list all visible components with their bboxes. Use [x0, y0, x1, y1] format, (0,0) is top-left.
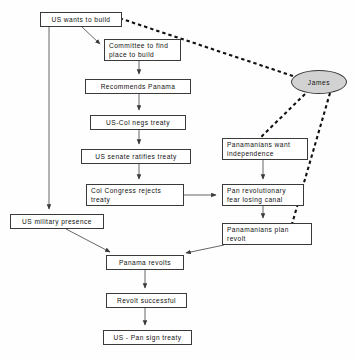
edge-us-military-presence-to-panama-revolts: [66, 229, 110, 252]
node-label: US senate ratifies treaty: [95, 152, 177, 161]
node-col-congress-rejects-treaty[interactable]: Col Congress rejects treaty: [86, 184, 184, 206]
node-label: Recommends Panama: [101, 82, 176, 91]
node-us-military-presence[interactable]: US military presence: [10, 214, 104, 229]
edge-us-wants-build-to-committee: [82, 27, 100, 44]
node-panama-revolts[interactable]: Panama revolts: [106, 255, 184, 270]
node-label: Panamanians want independence: [227, 140, 290, 158]
node-label: US wants to build: [52, 15, 111, 24]
node-us-pan-sign-treaty[interactable]: US - Pan sign treaty: [103, 330, 192, 345]
node-label: Col Congress rejects treaty: [91, 186, 161, 204]
node-panamanians-want-independence[interactable]: Panamanians want independence: [222, 138, 308, 160]
edge-panamanians-plan-revolt-to-panama-revolts: [186, 245, 224, 253]
node-label: Panamanians plan revolt: [227, 225, 289, 243]
node-label: US-Col negs treaty: [106, 118, 170, 127]
node-label: Panama revolts: [119, 258, 171, 267]
node-label: US - Pan sign treaty: [113, 333, 181, 342]
node-label: Revolt successful: [117, 296, 176, 305]
node-revolt-successful[interactable]: Revolt successful: [106, 293, 187, 308]
node-label: James: [308, 79, 330, 86]
node-us-col-negs-treaty[interactable]: US-Col negs treaty: [90, 115, 186, 130]
node-label: US military presence: [22, 217, 92, 226]
node-committee[interactable]: Committee to find place to build: [104, 39, 181, 61]
node-label: Pan revolutionary fear losing canal: [227, 186, 286, 204]
node-us-wants-build[interactable]: US wants to build: [40, 12, 122, 27]
flowchart-canvas: US wants to build Committee to find plac…: [0, 0, 356, 359]
node-label: Committee to find place to build: [109, 41, 168, 59]
node-james[interactable]: James: [291, 70, 347, 94]
node-panamanians-plan-revolt[interactable]: Panamanians plan revolt: [222, 223, 312, 245]
node-pan-revolutionary-fear-losing-canal[interactable]: Pan revolutionary fear losing canal: [222, 184, 304, 206]
edge-james-to-panamanians-want-indep-dashed: [259, 94, 305, 139]
node-us-senate-ratifies-treaty[interactable]: US senate ratifies treaty: [81, 149, 191, 164]
node-recommends-panama[interactable]: Recommends Panama: [85, 79, 191, 94]
